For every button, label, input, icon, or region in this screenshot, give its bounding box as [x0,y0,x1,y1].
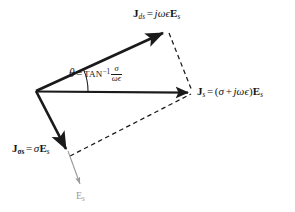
construction-line-jsigmas-to-js [70,94,191,156]
label-es-subscript: s [82,195,85,203]
label-displacement-current: Jds=jωϵEs [133,8,180,21]
label-jds-omega: ω [158,7,166,19]
label-jsigmas-equals: = [25,142,34,154]
construction-line-jds-to-js [169,33,192,91]
label-theta-symbol: θ [69,67,75,79]
label-jds-e-subscript: s [178,13,181,21]
label-theta-denominator: ωϵ [111,74,123,84]
label-conduction-current: Jσs=σEs [12,143,50,156]
label-theta-numerator: σ [111,65,123,74]
label-theta-equals: = [75,67,84,79]
label-js-equals: = [206,85,215,97]
vector-js [36,92,188,93]
label-jsigmas-e: E [39,142,46,154]
label-jds-equals: = [145,7,154,19]
label-angle-theta: θ=TAN−1σωϵ [69,65,123,83]
label-js-e-subscript: s [260,91,263,99]
vector-jsigmas [36,91,66,149]
label-jsigmas-subscript: σs [18,148,25,156]
label-jsigmas-e-subscript: s [47,148,50,156]
label-jds-e: E [170,7,177,19]
label-theta-exponent: −1 [102,68,110,76]
vector-es-ghost [68,151,80,184]
vector-diagram-canvas [0,0,295,212]
label-field-phasor: Es [76,191,85,203]
phasor-diagram-figure: Jds=jωϵEs Js=(σ+jωϵ)Es Jσs=σEs θ=TAN−1σω… [0,0,295,212]
label-total-current: Js=(σ+jωϵ)Es [197,86,263,99]
label-theta-tan: TAN [84,69,102,79]
label-theta-fraction: σωϵ [110,65,123,83]
